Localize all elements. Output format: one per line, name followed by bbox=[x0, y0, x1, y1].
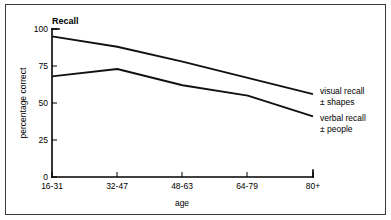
series-verbal-recall-label-line2: ± people bbox=[320, 124, 353, 134]
x-tick-label-0: 16-31 bbox=[41, 181, 63, 191]
x-axis-title: age bbox=[175, 198, 189, 208]
y-tick-label-50: 50 bbox=[39, 98, 49, 108]
y-tick-label-100: 100 bbox=[34, 24, 48, 34]
y-axis-title: percentage correct bbox=[18, 67, 28, 139]
series-verbal-recall-label-line1: verbal recall bbox=[320, 113, 366, 123]
chart-title: Recall bbox=[52, 16, 79, 26]
series-verbal-recall-line bbox=[52, 69, 313, 116]
x-tick-label-1: 32-47 bbox=[106, 181, 128, 191]
recall-line-chart: Recall 100 75 50 25 0 percentage correct bbox=[0, 0, 391, 220]
y-tick-label-25: 25 bbox=[39, 135, 49, 145]
x-tick-label-2: 48-63 bbox=[171, 181, 193, 191]
chart-figure: Recall 100 75 50 25 0 percentage correct bbox=[0, 0, 391, 220]
x-tick-label-4: 80+ bbox=[306, 181, 320, 191]
series-visual-recall-label-line2: ± shapes bbox=[320, 97, 354, 107]
x-tick-label-3: 64-79 bbox=[236, 181, 258, 191]
y-tick-label-75: 75 bbox=[39, 61, 49, 71]
series-visual-recall-label-line1: visual recall bbox=[320, 86, 365, 96]
